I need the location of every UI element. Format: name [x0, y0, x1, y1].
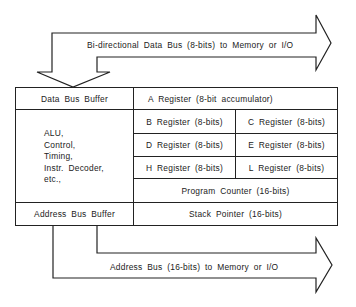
l-register-label: L Register (8-bits) — [249, 163, 324, 173]
data-bus-buffer: Data Bus Buffer — [15, 87, 134, 110]
address-bus-arrow — [53, 225, 332, 292]
control-unit-block: ALU, Control, Timing, Instr. Decoder, et… — [15, 109, 134, 203]
control-line-etc: etc., — [44, 174, 61, 186]
stack-pointer: Stack Pointer (16-bits) — [133, 202, 338, 226]
cpu-architecture-diagram: Bi-directional Data Bus (8-bits) to Memo… — [0, 0, 356, 307]
control-line-alu: ALU, — [44, 128, 64, 140]
program-counter: Program Counter (16-bits) — [133, 178, 338, 203]
h-register-label: H Register (8-bits) — [146, 163, 223, 173]
d-register: D Register (8-bits) — [133, 133, 236, 157]
a-register-label: A Register (8-bit accumulator) — [148, 94, 273, 104]
stack-pointer-label: Stack Pointer (16-bits) — [189, 209, 282, 219]
h-register: H Register (8-bits) — [133, 156, 236, 179]
address-bus-buffer-label: Address Bus Buffer — [34, 209, 115, 219]
b-register: B Register (8-bits) — [133, 109, 236, 134]
c-register: C Register (8-bits) — [235, 109, 338, 134]
address-bus-buffer: Address Bus Buffer — [15, 202, 134, 226]
program-counter-label: Program Counter (16-bits) — [182, 186, 290, 196]
control-line-timing: Timing, — [44, 151, 73, 163]
data-bus-arrow — [37, 15, 331, 87]
e-register: E Register (8-bits) — [235, 133, 338, 157]
l-register: L Register (8-bits) — [235, 156, 338, 179]
control-line-instr-decoder: Instr. Decoder, — [44, 163, 104, 175]
d-register-label: D Register (8-bits) — [146, 140, 223, 150]
data-bus-buffer-label: Data Bus Buffer — [41, 94, 108, 104]
b-register-label: B Register (8-bits) — [146, 117, 223, 127]
control-line-control: Control, — [44, 140, 75, 152]
c-register-label: C Register (8-bits) — [248, 117, 325, 127]
address-bus-label: Address Bus (16-bits) to Memory or I/O — [110, 262, 278, 272]
e-register-label: E Register (8-bits) — [248, 140, 325, 150]
data-bus-label: Bi-directional Data Bus (8-bits) to Memo… — [87, 40, 293, 50]
a-register: A Register (8-bit accumulator) — [133, 87, 338, 110]
